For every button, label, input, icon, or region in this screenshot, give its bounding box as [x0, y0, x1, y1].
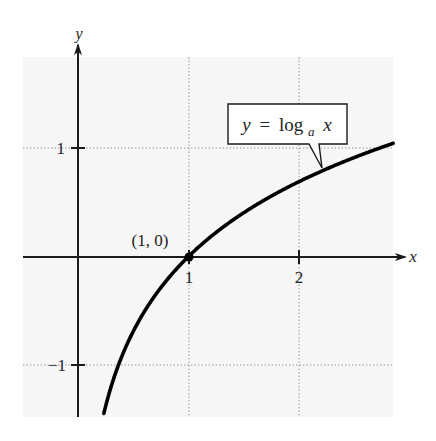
- y-tick-label-m1: −1: [48, 356, 66, 375]
- callout-eq: =: [260, 114, 271, 135]
- y-axis-label: y: [73, 25, 83, 43]
- x-tick-label-1: 1: [185, 268, 194, 287]
- callout-fn: log: [279, 114, 304, 135]
- x-tick-label-2: 2: [295, 268, 304, 287]
- callout-lhs: y: [240, 114, 251, 135]
- point-1-0-label: (1, 0): [132, 231, 169, 250]
- y-tick-label-1: 1: [57, 139, 66, 158]
- callout-sub: a: [308, 124, 315, 139]
- point-1-0: [185, 253, 194, 262]
- log-function-chart: y x 1 2 1 −1 (1, 0) y = log a x: [0, 0, 436, 441]
- callout-arg: x: [322, 114, 332, 135]
- x-axis-label: x: [408, 247, 417, 266]
